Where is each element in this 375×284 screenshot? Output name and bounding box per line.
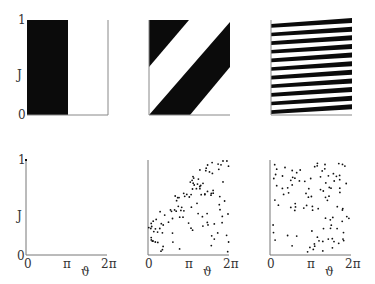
y-tick-0-a: 0 [18, 109, 26, 121]
y-axis-label-a: J [17, 69, 22, 81]
x-tick-0-d: 0 [24, 258, 32, 270]
y-axis-label-d: J [17, 210, 22, 222]
x-tick-2pi-e: 2π [223, 258, 239, 270]
panel-d-scatter [26, 160, 107, 255]
panel-f-scatter [270, 160, 351, 255]
phase-portrait-c [271, 20, 352, 115]
scatter-plot-f [270, 160, 351, 255]
x-tick-0-f: 0 [267, 258, 275, 270]
phase-portrait-a [27, 20, 108, 115]
x-tick-2pi-f: 2π [345, 258, 361, 270]
y-tick-1-a: 1 [18, 14, 26, 26]
x-tick-pi-f: π [307, 258, 315, 270]
x-axis-label-d: ϑ [81, 266, 90, 278]
x-tick-pi-d: π [63, 258, 71, 270]
panel-e-scatter [148, 160, 229, 255]
x-tick-2pi-d: 2π [101, 258, 117, 270]
x-tick-0-e: 0 [145, 258, 153, 270]
x-axis-label-e: ϑ [203, 266, 212, 278]
panel-b-diagonal-stripes [149, 20, 230, 115]
x-axis-label-f: ϑ [325, 266, 334, 278]
y-tick-1-d: 1 [18, 154, 26, 166]
x-tick-pi-e: π [185, 258, 193, 270]
scatter-plot-e [148, 160, 229, 255]
panel-a-vertical-half [27, 20, 108, 115]
phase-portrait-b [149, 20, 230, 115]
panel-c-many-stripes [271, 20, 352, 115]
scatter-plot-d [26, 160, 107, 255]
